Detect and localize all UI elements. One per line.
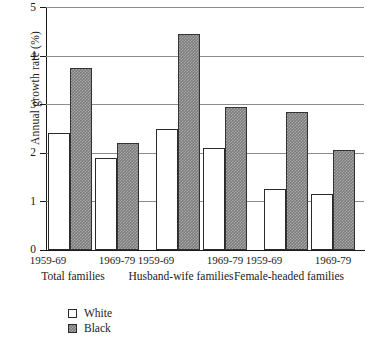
x-label-husband-wife-1959-69: 1959-69 (121, 254, 191, 267)
bar-black-female-headed-1969-79 (333, 150, 355, 250)
bar-white-total-1969-79 (95, 158, 117, 250)
legend-label-black: Black (84, 323, 111, 335)
legend-item-white: White (68, 306, 112, 321)
y-tick-label-5: 5 (6, 2, 36, 14)
gridline-3 (46, 104, 364, 105)
x-label-female-headed-1969-79: 1969-79 (298, 254, 368, 267)
bar-white-husband-wife-1969-79 (203, 148, 225, 250)
gridline-5 (46, 7, 364, 8)
plot-area (46, 7, 364, 250)
bar-white-female-headed-1969-79 (311, 194, 333, 250)
group-label-female-headed-families: Female-headed families (214, 270, 364, 284)
bar-black-husband-wife-1959-69 (178, 34, 200, 250)
x-label-female-headed-1959-69: 1959-69 (229, 254, 299, 267)
bar-white-husband-wife-1959-69 (156, 129, 178, 251)
x-axis-line (40, 250, 365, 251)
bar-white-female-headed-1959-69 (264, 189, 286, 250)
legend-label-white: White (84, 308, 112, 320)
legend-swatch-black-icon (68, 324, 77, 333)
legend-item-black: Black (68, 321, 112, 336)
y-tick-label-4: 4 (6, 50, 36, 62)
bar-black-husband-wife-1969-79 (225, 107, 247, 250)
bar-black-total-1959-69 (70, 68, 92, 250)
y-tick-label-2: 2 (6, 147, 36, 159)
y-tick-label-3: 3 (6, 99, 36, 111)
bar-white-total-1959-69 (48, 133, 70, 250)
chart-legend: White Black (68, 306, 112, 336)
bar-black-total-1969-79 (117, 143, 139, 250)
gridline-4 (46, 56, 364, 57)
legend-swatch-white-icon (68, 309, 77, 318)
bar-black-female-headed-1959-69 (286, 112, 308, 251)
y-tick-label-1: 1 (6, 196, 36, 208)
bar-chart-figure: Annual growth rate (%) 5 4 3 2 1 0 1 (0, 0, 371, 343)
x-label-total-1959-69: 1959-69 (13, 254, 83, 267)
